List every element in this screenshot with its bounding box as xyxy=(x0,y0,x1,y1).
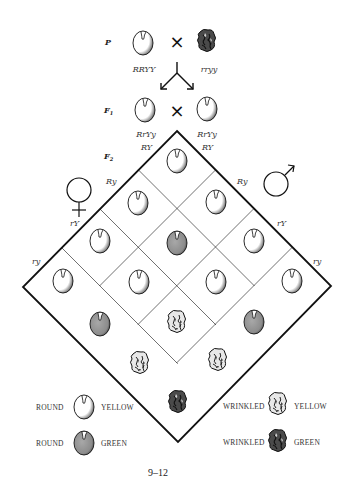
female-gamete-label-4: ry xyxy=(32,257,41,266)
svg-text:YELLOW: YELLOW xyxy=(294,402,328,411)
f1-generation-label: F1 xyxy=(103,105,113,116)
parent-right-genotype: rryy xyxy=(201,65,218,74)
legend-item-round-green: ROUND GREEN xyxy=(36,431,127,455)
cross-symbol-f1: × xyxy=(169,100,184,121)
cell-rY-ry xyxy=(209,348,227,370)
svg-text:GREEN: GREEN xyxy=(101,439,127,448)
cell-Ry-ry xyxy=(244,310,264,334)
cell-RY-Ry xyxy=(206,190,226,214)
cell-ry-ry xyxy=(169,390,187,412)
cell-rY-RY xyxy=(90,229,110,253)
f1-left-genotype: RrYy xyxy=(135,130,156,139)
dihybrid-cross-diagram: P × RRYY rryy F1 × RrYy RrYy F2 RY Ry rY… xyxy=(0,0,349,484)
cell-ry-rY xyxy=(131,351,149,373)
svg-text:WRINKLED: WRINKLED xyxy=(223,438,265,447)
svg-text:GREEN: GREEN xyxy=(294,438,320,447)
svg-text:WRINKLED: WRINKLED xyxy=(223,402,265,411)
legend-wrinkled-yellow-pea-icon xyxy=(269,392,287,414)
male-symbol-icon xyxy=(264,165,294,196)
cell-Ry-rY xyxy=(206,270,226,294)
svg-text:ROUND: ROUND xyxy=(36,439,64,448)
parent-round-yellow-pea xyxy=(133,31,153,55)
female-symbol-icon xyxy=(67,178,91,217)
branch-arrow-icon xyxy=(161,62,193,89)
cell-Ry-RY xyxy=(128,191,148,215)
male-gamete-label-3: rY xyxy=(277,219,287,228)
f1-right-pea xyxy=(197,97,217,121)
cross-symbol-p: × xyxy=(169,31,184,52)
cell-rY-Ry xyxy=(129,270,149,294)
cell-ry-Ry xyxy=(90,312,110,336)
cell-Ry-Ry xyxy=(167,231,187,255)
legend-round-yellow-pea-icon xyxy=(74,395,94,419)
cell-RY-ry xyxy=(282,269,302,293)
legend-round-green-pea-icon xyxy=(74,431,94,455)
legend-wrinkled-green-pea-icon xyxy=(269,429,287,451)
parent-left-genotype: RRYY xyxy=(132,65,156,74)
legend-item-wrinkled-yellow: WRINKLED YELLOW xyxy=(223,392,328,414)
male-gamete-label-1: RY xyxy=(201,143,214,152)
p-generation-label: P xyxy=(104,37,112,47)
cell-RY-rY xyxy=(244,229,264,253)
parent-wrinkled-green-pea xyxy=(198,29,216,51)
f1-left-pea xyxy=(135,98,155,122)
figure-number: 9–12 xyxy=(148,467,168,478)
cell-RY-RY xyxy=(167,149,187,173)
male-gamete-label-4: ry xyxy=(313,257,322,266)
legend-item-round-yellow: ROUND YELLOW xyxy=(36,395,135,419)
legend-item-wrinkled-green: WRINKLED GREEN xyxy=(223,429,320,451)
svg-text:YELLOW: YELLOW xyxy=(101,403,135,412)
male-gamete-label-2: Ry xyxy=(236,177,248,186)
svg-text:ROUND: ROUND xyxy=(36,403,64,412)
cell-ry-RY xyxy=(53,269,73,293)
female-gamete-label-1: RY xyxy=(140,143,153,152)
female-gamete-label-2: Ry xyxy=(105,177,117,186)
cell-rY-rY xyxy=(168,310,186,332)
f1-right-genotype: RrYy xyxy=(196,130,217,139)
female-gamete-label-3: rY xyxy=(70,219,80,228)
f2-generation-label: F2 xyxy=(103,151,114,162)
